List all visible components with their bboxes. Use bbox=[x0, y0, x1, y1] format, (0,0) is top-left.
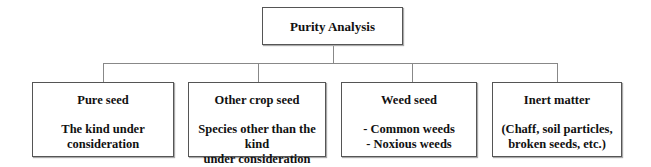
node-description: (Chaff, soil particles, bbox=[501, 122, 612, 137]
node-title: Pure seed bbox=[77, 93, 129, 108]
node-description: under consideration bbox=[203, 152, 310, 167]
connector-branch-pure-seed bbox=[103, 63, 104, 82]
node-inert-matter: Inert matter (Chaff, soil particles, bro… bbox=[492, 82, 622, 157]
node-pure-seed: Pure seed The kind under consideration bbox=[32, 82, 174, 157]
node-description: broken seeds, etc.) bbox=[508, 137, 606, 152]
connector-branch-other-crop-seed bbox=[258, 63, 259, 82]
node-description: The kind under consideration bbox=[33, 122, 173, 152]
connector-root-down bbox=[333, 45, 334, 63]
root-node-purity-analysis: Purity Analysis bbox=[262, 7, 403, 45]
node-item-common-weeds: - Common weeds bbox=[363, 122, 455, 137]
node-description: Species other than the kind bbox=[189, 122, 325, 152]
connector-horizontal bbox=[103, 63, 557, 64]
node-title: Inert matter bbox=[524, 93, 590, 108]
node-title: Weed seed bbox=[381, 93, 437, 108]
root-label: Purity Analysis bbox=[290, 19, 375, 34]
node-item-noxious-weeds: - Noxious weeds bbox=[366, 137, 451, 152]
node-other-crop-seed: Other crop seed Species other than the k… bbox=[188, 82, 326, 157]
node-title: Other crop seed bbox=[215, 93, 300, 108]
node-weed-seed: Weed seed - Common weeds - Noxious weeds bbox=[341, 82, 477, 157]
connector-branch-inert-matter bbox=[557, 63, 558, 82]
connector-branch-weed-seed bbox=[412, 63, 413, 82]
